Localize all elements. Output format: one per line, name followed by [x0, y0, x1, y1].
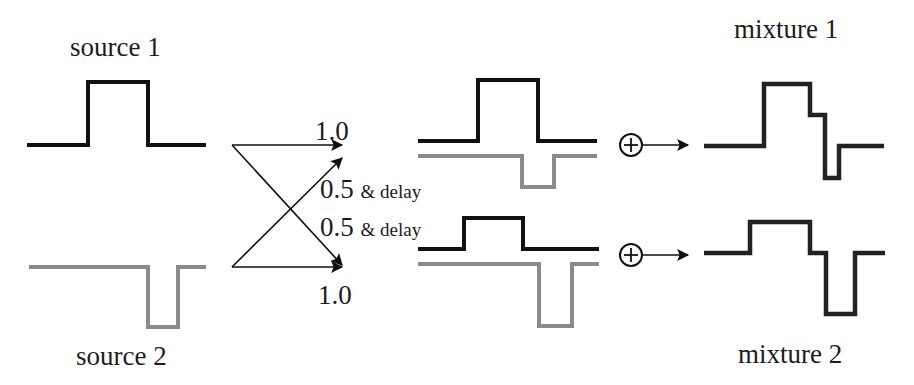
mixture-2-signal: [704, 222, 885, 314]
mixing-arrows: [232, 145, 342, 267]
source-1-signal: [27, 82, 206, 145]
mix1-component-source2-delayed: [418, 156, 597, 187]
sum-node-top: [620, 134, 688, 156]
mix2-component-source2: [418, 264, 599, 326]
mixing-diagram: [0, 0, 914, 385]
mixture-1-signal: [704, 84, 884, 178]
source-2-signal: [29, 267, 206, 327]
mix1-component-source1: [418, 80, 597, 141]
sum-node-bottom: [620, 244, 688, 266]
mix2-component-source1-delayed: [418, 218, 599, 249]
